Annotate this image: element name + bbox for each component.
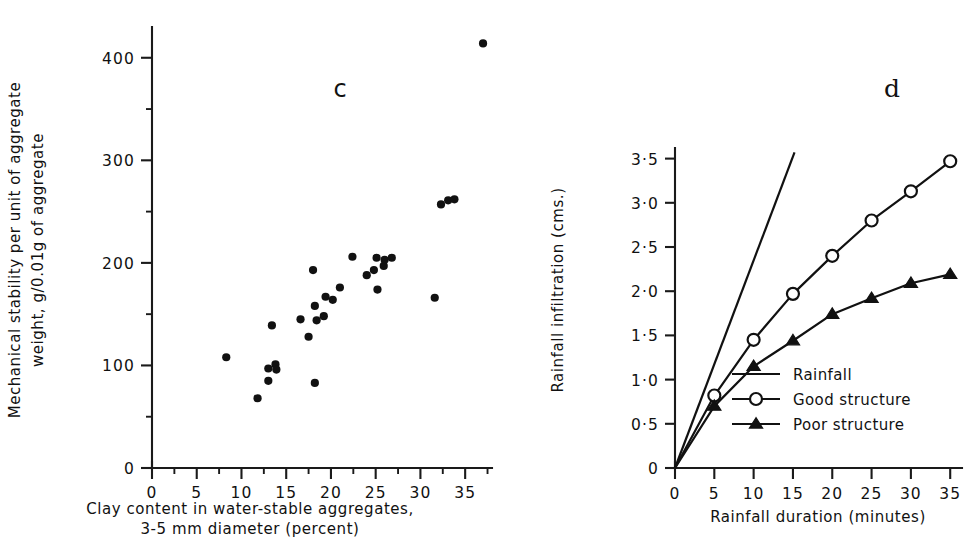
panel-c-xlabel-line2: 3-5 mm diameter (percent): [141, 520, 360, 538]
marker-open-circle: [944, 155, 956, 167]
scatter-point: [222, 353, 230, 361]
y-tick-label: 3·0: [631, 195, 659, 213]
scatter-point: [272, 365, 280, 373]
panel-d-legend: RainfallGood structurePoor structure: [732, 366, 911, 434]
panel-c-letter: c: [333, 75, 346, 103]
y-tick-label: 0·5: [631, 416, 659, 434]
scatter-point: [253, 394, 261, 402]
panel-c-data-points: [222, 39, 487, 402]
marker-filled-triangle: [747, 360, 760, 370]
legend-open-circle-icon: [750, 393, 762, 405]
scatter-point: [348, 253, 356, 261]
legend-label-0: Rainfall: [793, 366, 852, 384]
y-tick-label: 100: [102, 357, 135, 375]
scatter-point: [479, 39, 487, 47]
x-tick-label: 25: [861, 485, 883, 503]
scatter-point: [304, 333, 312, 341]
marker-filled-triangle: [786, 334, 799, 344]
marker-open-circle: [787, 288, 799, 300]
y-tick-label: 0: [124, 460, 135, 478]
panel-c-scatter-chart: Mechanical stability per unit of aggrega…: [0, 0, 500, 545]
scatter-point: [296, 315, 304, 323]
scatter-point: [313, 316, 321, 324]
y-tick-label: 200: [102, 255, 135, 273]
x-tick-label: 30: [900, 485, 922, 503]
x-tick-label: 35: [939, 485, 961, 503]
x-tick-label: 20: [821, 485, 843, 503]
scatter-point: [363, 271, 371, 279]
panel-c-svg: Mechanical stability per unit of aggrega…: [0, 0, 500, 545]
y-tick-label: 300: [102, 152, 135, 170]
panel-d-line-chart: Rainfall infiltration (cms.) d 00·51·01·…: [500, 0, 969, 545]
scatter-point: [388, 254, 396, 262]
scatter-point: [372, 254, 380, 262]
x-tick-label: 10: [743, 485, 765, 503]
x-tick-label: 15: [782, 485, 804, 503]
legend-label-2: Poor structure: [793, 416, 904, 434]
panel-c-ylabel-line1: Mechanical stability per unit of aggrega…: [6, 82, 24, 419]
scatter-point: [309, 266, 317, 274]
panel-c-ylabel-line2: weight, g/0.01g of aggregate: [29, 133, 47, 367]
scatter-point: [311, 302, 319, 310]
y-tick-label: 1·5: [631, 327, 659, 345]
marker-filled-triangle: [944, 268, 957, 278]
figure-root: Mechanical stability per unit of aggrega…: [0, 0, 969, 545]
marker-open-circle: [826, 250, 838, 262]
panel-d-letter: d: [884, 74, 900, 103]
panel-d-svg: Rainfall infiltration (cms.) d 00·51·01·…: [500, 0, 969, 545]
y-tick-label: 0: [648, 460, 659, 478]
panel-d-ylabel: Rainfall infiltration (cms.): [549, 187, 567, 392]
marker-open-circle: [905, 185, 917, 197]
scatter-point: [320, 312, 328, 320]
scatter-point: [329, 296, 337, 304]
y-tick-label: 1·0: [631, 372, 659, 390]
scatter-point: [370, 266, 378, 274]
scatter-point: [311, 379, 319, 387]
marker-open-circle: [748, 334, 760, 346]
panel-d-xlabel: Rainfall duration (minutes): [710, 508, 926, 526]
scatter-point: [321, 293, 329, 301]
scatter-point: [373, 285, 381, 293]
legend-label-1: Good structure: [793, 391, 911, 409]
panel-c-xlabel-line1: Clay content in water-stable aggregates,: [86, 500, 414, 518]
scatter-point: [268, 321, 276, 329]
y-tick-label: 2·0: [631, 283, 659, 301]
scatter-point: [431, 294, 439, 302]
scatter-point: [264, 377, 272, 385]
y-tick-label: 400: [102, 50, 135, 68]
x-tick-label: 5: [709, 485, 720, 503]
scatter-point: [264, 364, 272, 372]
y-tick-label: 2·5: [631, 239, 659, 257]
scatter-point: [336, 283, 344, 291]
scatter-point: [381, 256, 389, 264]
scatter-point: [437, 200, 445, 208]
panel-d-tick-labels: 00·51·01·52·02·53·03·505101520253035: [631, 151, 961, 503]
y-tick-label: 3·5: [631, 151, 659, 169]
x-tick-label: 0: [670, 485, 681, 503]
marker-open-circle: [866, 214, 878, 226]
series-line-0: [675, 152, 795, 468]
panel-c-tick-labels: 010020030040005101520253035: [102, 50, 476, 502]
x-tick-label: 35: [454, 484, 476, 502]
scatter-point: [450, 195, 458, 203]
